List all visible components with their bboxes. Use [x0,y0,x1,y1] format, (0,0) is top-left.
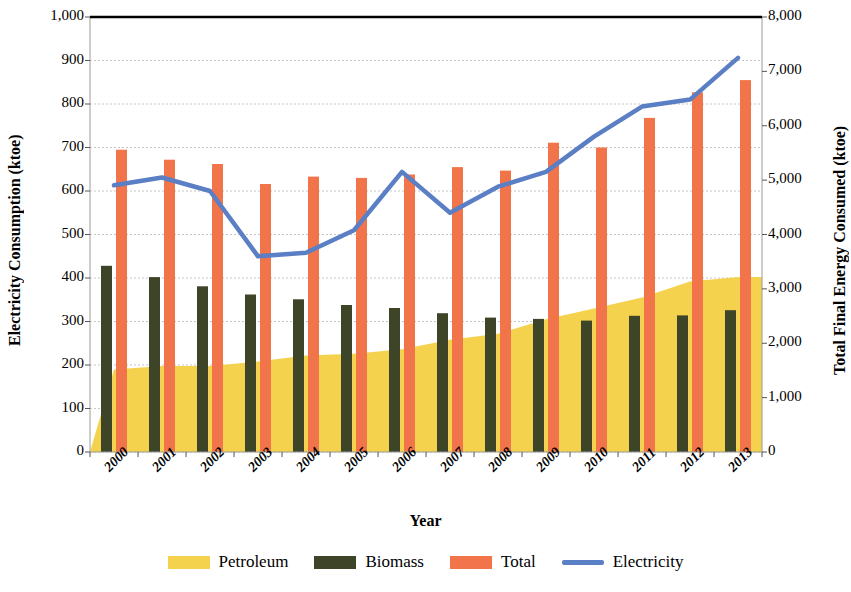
y-axis-left-tick-label: 300 [30,312,84,329]
total-bar [308,177,319,452]
total-bar [260,184,271,452]
biomass-bar [581,321,592,452]
biomass-bar [293,299,304,452]
petroleum-area [90,277,762,452]
y-axis-left-tick-label: 100 [30,399,84,416]
total-bar [116,150,127,452]
total-bar [404,175,415,453]
total-bar [644,118,655,452]
y-axis-right-tick-label: 1,000 [768,388,828,405]
legend-label: Petroleum [219,552,289,572]
biomass-bar [101,266,112,452]
biomass-bar [341,305,352,452]
legend-color-swatch [168,556,210,569]
biomass-bar [389,308,400,452]
y-axis-left-tick-label: 600 [30,181,84,198]
y-axis-right-tick-label: 3,000 [768,279,828,296]
y-axis-right-tick-label: 6,000 [768,116,828,133]
legend-color-swatch [450,556,492,569]
biomass-bar [149,277,160,452]
total-bar [692,92,703,452]
y-axis-left-tick-label: 700 [30,138,84,155]
y-axis-right-tick-label: 0 [768,442,828,459]
biomass-bar [485,318,496,452]
y-axis-left-tick-label: 800 [30,94,84,111]
chart-figure: Electricity Consumption (ktoe) Total Fin… [0,0,851,592]
biomass-bar [725,310,736,452]
biomass-bar [197,286,208,452]
biomass-bar [629,316,640,452]
y-axis-left-tick-label: 400 [30,268,84,285]
y-axis-left-tick-label: 0 [30,442,84,459]
y-axis-left-tick-label: 900 [30,51,84,68]
legend-label: Total [501,552,536,572]
y-axis-right-tick-label: 2,000 [768,333,828,350]
total-bar [596,148,607,453]
legend-label: Biomass [365,552,424,572]
total-bar [500,171,511,452]
chart-legend: PetroleumBiomassTotalElectricity [0,552,851,572]
x-axis-title: Year [0,512,851,530]
y-axis-left-tick-label: 500 [30,225,84,242]
y-axis-right-tick-label: 7,000 [768,61,828,78]
legend-item: Petroleum [168,552,289,572]
y-axis-left-tick-label: 1,000 [30,7,84,24]
plot-area [0,0,851,592]
legend-item: Biomass [314,552,424,572]
biomass-bar [245,295,256,453]
legend-line-marker [562,560,604,565]
y-axis-right-tick-label: 4,000 [768,225,828,242]
y-axis-left-tick-label: 200 [30,355,84,372]
y-axis-right-tick-label: 5,000 [768,170,828,187]
legend-color-swatch [314,556,356,569]
legend-label: Electricity [613,552,684,572]
y-axis-left-title: Electricity Consumption (ktoe) [6,60,24,420]
biomass-bar [533,319,544,452]
y-axis-right-title: Total Final Energy Consumed (ktoe) [831,60,849,440]
y-axis-right-tick-label: 8,000 [768,7,828,24]
total-bar [740,80,751,452]
legend-item: Electricity [562,552,684,572]
total-bar [164,160,175,452]
biomass-bar [437,313,448,452]
legend-item: Total [450,552,536,572]
total-bar [548,143,559,452]
biomass-bar [677,315,688,452]
